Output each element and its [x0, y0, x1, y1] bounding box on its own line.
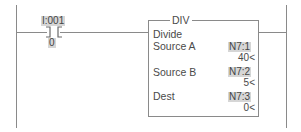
- param-address-source-b[interactable]: N7:2: [228, 67, 251, 77]
- param-value-source-b: 5<: [244, 78, 255, 88]
- contact-bit: 0: [48, 38, 56, 48]
- div-instruction-block[interactable]: DIV Divide Source A N7:1 40< Source B N7…: [148, 20, 259, 117]
- param-address-source-a[interactable]: N7:1: [228, 42, 251, 52]
- left-power-rail: [16, 5, 17, 128]
- param-label-dest: Dest: [153, 91, 175, 102]
- param-label-source-a: Source A: [153, 41, 196, 52]
- param-value-dest: 0<: [244, 103, 255, 113]
- param-value-source-a: 40<: [238, 53, 255, 63]
- xic-contact[interactable]: I:001 0: [40, 15, 68, 47]
- rung-wire-middle: [60, 32, 148, 33]
- right-power-rail: [286, 5, 287, 128]
- instruction-description: Divide: [153, 29, 182, 40]
- instruction-mnemonic: DIV: [170, 15, 192, 26]
- rung-wire-right: [258, 32, 286, 33]
- param-label-source-b: Source B: [153, 67, 196, 78]
- contact-address: I:001: [41, 16, 65, 26]
- param-address-dest[interactable]: N7:3: [228, 92, 251, 102]
